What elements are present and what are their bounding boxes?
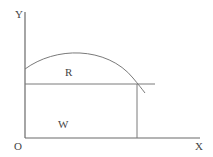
- diagram-canvas: Y X O R W: [0, 0, 213, 157]
- x-axis-label: X: [195, 140, 203, 152]
- region-r-label: R: [65, 66, 73, 78]
- y-axis-label: Y: [15, 8, 23, 20]
- region-w-label: W: [58, 118, 69, 130]
- curve: [25, 53, 145, 93]
- origin-label: O: [14, 140, 22, 152]
